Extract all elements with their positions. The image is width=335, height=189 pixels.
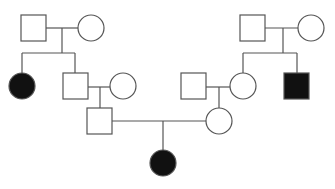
male-unaffected-i1 — [21, 15, 46, 41]
male-affected-ii6 — [284, 73, 309, 99]
female-affected-ii1 — [9, 73, 35, 99]
female-unaffected-ii5 — [230, 73, 256, 99]
male-unaffected-ii2 — [63, 73, 88, 99]
female-unaffected-i4 — [298, 15, 324, 41]
individuals — [9, 15, 324, 176]
male-unaffected-i3 — [240, 15, 265, 41]
male-unaffected-iii1 — [87, 108, 112, 134]
male-unaffected-ii4 — [181, 73, 206, 99]
female-unaffected-iii2 — [206, 108, 232, 134]
female-unaffected-i2 — [78, 15, 104, 41]
pedigree-chart — [0, 0, 335, 189]
female-affected-iv1 — [150, 150, 176, 176]
female-unaffected-ii3 — [110, 73, 136, 99]
